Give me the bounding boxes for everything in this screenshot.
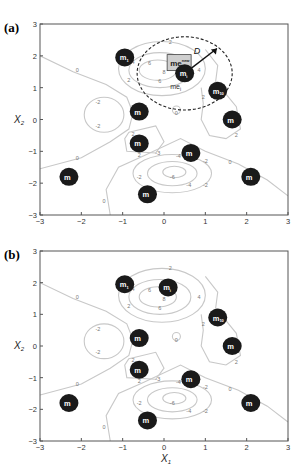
node-label: m [246,173,253,182]
x-tick-label: −1 [118,443,127,452]
node-label: m [142,416,149,425]
cluster-node: m [181,370,200,388]
contour-level-label: -6 [170,174,175,180]
y-tick-label: 0 [33,116,37,125]
cluster-node: m [130,103,149,121]
node-label: m [134,334,141,343]
node-label: m [246,399,253,408]
panel-a: (a)24686420-2-2220-3-4-2-2-6-4-200022−3−… [0,0,303,227]
contour-level-label: 2 [169,265,172,271]
cluster-node: m [59,168,78,186]
x-tick-label: −2 [77,217,86,226]
contour-level-label: -4 [186,182,191,188]
cluster-node: m [241,394,260,412]
radius-label: D [194,46,201,56]
contour-level-label: -2 [95,99,100,105]
contour-level-label: 2 [169,39,172,45]
cluster-node: mi [159,278,178,296]
panel-label: (b) [4,247,20,262]
node-label: m [227,342,234,351]
contour-level-label: 6 [148,60,151,66]
cluster-node: mi [175,64,194,82]
node-label: m [64,173,71,182]
cluster-node: m [130,361,149,379]
contour-level-label: 2 [235,132,238,138]
contour-level-label: 0 [175,110,178,116]
panel-b: (b)24686420-2-2220-3-4-2-2-6-4-200022−3−… [0,227,303,476]
contour-level-label: -2 [95,349,100,355]
x-tick-label: 2 [245,443,249,452]
contour-level-label: 8 [162,296,165,302]
y-tick-label: −1 [28,374,37,383]
contour-level-label: -4 [186,408,191,414]
contour-level-label: 2 [202,321,205,327]
y-tick-label: 3 [33,20,37,29]
contour-level-label: -4 [176,153,181,159]
contour-level-label: 2 [202,94,205,100]
cluster-node: m10 [208,309,227,327]
node-label: m [227,116,234,125]
cluster-node: m1 [115,48,134,66]
y-tick-label: 0 [33,342,37,351]
node-label: mi [163,283,171,293]
cluster-node: m [223,337,242,355]
y-tick-label: 3 [33,247,37,256]
x-tick-label: −3 [36,217,45,226]
contour-level-label: 8 [162,69,165,75]
contour-level-label: 0 [229,159,232,165]
x-tick-label: 3 [286,443,290,452]
contour-level-label: 0 [175,337,178,343]
contour-level-label: 0 [103,198,106,204]
contour-level-label: -2 [203,384,208,390]
y-tick-label: −3 [28,437,37,446]
cluster-node: m [130,329,149,347]
existing-cluster-label: mei [170,83,181,92]
cluster-node: m [130,134,149,152]
y-tick-label: 2 [33,52,37,61]
x-tick-label: 0 [162,217,166,226]
contour-level-label: -2 [137,174,142,180]
contour-level-label: 2 [127,303,130,309]
y-tick-label: 1 [33,84,37,93]
cluster-node: m [223,111,242,129]
contour-level-label: -6 [170,400,175,406]
x-tick-label: 3 [286,217,290,226]
x-tick-label: 0 [162,443,166,452]
y-tick-label: −3 [28,211,37,220]
y-tick-label: −2 [28,179,37,188]
x-tick-label: 2 [245,217,249,226]
node-label: m [134,366,141,375]
contour-level-label: -2 [203,408,208,414]
contour-level-label: 0 [76,294,79,300]
contour-level-label: 0 [76,67,79,73]
contour-level-label: -3 [155,150,160,156]
cluster-node: m10 [208,82,227,100]
panel-label: (a) [4,20,19,35]
contour-level-label: -2 [137,400,142,406]
cluster-node: m [241,168,260,186]
contour-level-label: -2 [203,182,208,188]
contour-level-label: 0 [229,386,232,392]
contour-level-label: -2 [203,158,208,164]
node-label: mi [180,69,188,79]
x-tick-label: −3 [36,443,45,452]
node-label: m [134,139,141,148]
contour-level-label: 2 [138,152,141,158]
x-axis-label: X1 [160,453,171,465]
node-label: m [186,149,193,158]
y-axis-label: X2 [13,340,25,352]
contour-level-label: 0 [76,381,79,387]
contour-lines: 24686420-2-2220-3-4-2-2-6-4-200022 [40,39,288,215]
contour-level-label: 4 [198,67,201,73]
contour-level-label: 0 [76,155,79,161]
x-tick-label: −2 [77,443,86,452]
x-tick-label: 1 [203,217,207,226]
contour-plot-a: (a)24686420-2-2220-3-4-2-2-6-4-200022−3−… [0,0,303,227]
cluster-node: m [138,411,157,429]
y-tick-label: −2 [28,405,37,414]
contour-level-label: -3 [155,376,160,382]
y-axis-label: X2 [13,114,25,126]
node-label: m [134,108,141,117]
contour-level-label: -4 [176,379,181,385]
contour-level-label: 0 [103,424,106,430]
